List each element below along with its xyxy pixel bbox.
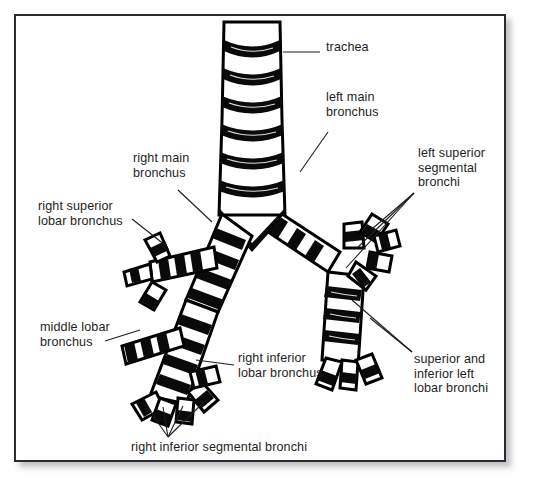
label-right-main-bronchus: right main bronchus (133, 151, 189, 180)
label-right-inferior-lobar-bronchus: right inferior lobar bronchus (238, 351, 323, 380)
label-left-superior-segmental-bronchi: left superior segmental bronchi (418, 146, 485, 190)
label-right-inferior-segmental-bronchi: right inferior segmental bronchi (131, 440, 307, 455)
label-left-main-bronchus: left main bronchus (326, 90, 379, 119)
label-right-superior-lobar-bronchus: right superior lobar bronchus (38, 199, 123, 228)
label-trachea: trachea (326, 40, 369, 55)
label-middle-lobar-bronchus: middle lobar bronchus (40, 320, 110, 349)
label-superior-and-inferior-left-lobar-bronchi: superior and inferior left lobar bronchi (414, 352, 488, 396)
